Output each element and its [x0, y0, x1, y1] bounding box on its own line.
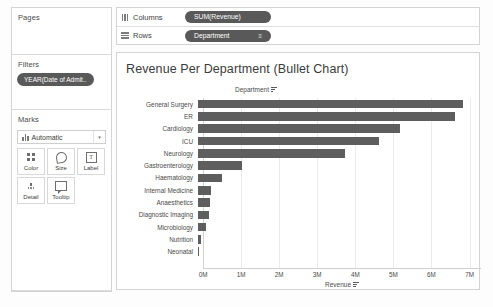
bar-mark[interactable] [198, 223, 206, 232]
bar-row-label[interactable]: Cardiology [117, 125, 198, 132]
bar-row: General Surgery [117, 98, 481, 110]
detail-icon [28, 180, 35, 192]
bar-row-label[interactable]: General Surgery [117, 101, 198, 108]
color-icon [27, 151, 35, 163]
size-icon [56, 151, 67, 163]
bar-mark-icon [22, 134, 29, 141]
bar-track [198, 110, 481, 122]
bar-mark[interactable] [198, 211, 209, 220]
bar-row: Cardiology [117, 123, 481, 135]
rows-label: Rows [133, 31, 185, 40]
sort-descending-icon[interactable]: ≡ [258, 30, 262, 42]
axis-tick-label: 7M [465, 271, 474, 278]
pages-title: Pages [12, 8, 111, 25]
bar-row-label[interactable]: Diagnostic Imaging [117, 211, 198, 218]
bar-row-label[interactable]: Microbiology [117, 224, 198, 231]
marks-buttons: Color Size T Label Detail [17, 148, 106, 204]
bar-row: Gastroenterology [117, 159, 481, 171]
axis-tick-label: 2M [275, 271, 284, 278]
bar-row: Haematology [117, 172, 481, 184]
columns-pill-sum-revenue[interactable]: SUM(Revenue) [185, 11, 271, 23]
columns-icon [117, 14, 133, 21]
marks-type-label: Automatic [32, 134, 94, 141]
page-caption [0, 297, 493, 307]
marks-color-button[interactable]: Color [17, 148, 45, 175]
rows-icon [117, 32, 133, 38]
bar-row-label[interactable]: ER [117, 113, 198, 120]
bar-mark[interactable] [198, 198, 210, 207]
bar-row-label[interactable]: Neurology [117, 150, 198, 157]
page-title: Revenue Per Department (Bullet Chart) [117, 53, 479, 76]
bullet-chart-plot: General SurgeryERCardiologyICUNeurologyG… [117, 98, 481, 268]
value-axis-line [203, 268, 481, 269]
viz-pane: Revenue Per Department (Bullet Chart) De… [116, 52, 480, 290]
bar-row: Anaesthetics [117, 196, 481, 208]
bar-row-label[interactable]: Gastroenterology [117, 162, 198, 169]
axis-tick-label: 4M [351, 271, 360, 278]
bar-track [198, 246, 481, 258]
bar-track [198, 123, 481, 135]
bar-track [198, 184, 481, 196]
value-axis-title-text: Revenue [325, 281, 351, 288]
bar-mark[interactable] [198, 186, 211, 195]
bar-row-label[interactable]: Neonatal [117, 248, 198, 255]
filters-card[interactable]: Filters YEAR(Date of Admit.. [12, 55, 111, 110]
chevron-down-icon[interactable]: ▾ [93, 131, 105, 143]
bar-mark[interactable] [198, 149, 345, 158]
rows-pill-department[interactable]: Department ≡ [185, 30, 271, 42]
tableau-worksheet: Pages Filters YEAR(Date of Admit.. Marks… [0, 0, 493, 307]
marks-card: Marks Automatic ▾ Color Size T [12, 110, 111, 291]
bar-track [198, 221, 481, 233]
bar-mark[interactable] [198, 174, 222, 183]
marks-detail-button[interactable]: Detail [17, 177, 45, 204]
marks-size-button[interactable]: Size [47, 148, 75, 175]
bar-row-label[interactable]: Haematology [117, 174, 198, 181]
columns-rows-shelf: Columns SUM(Revenue) Rows Department ≡ [116, 7, 480, 45]
marks-detail-label: Detail [23, 193, 38, 201]
pages-card[interactable]: Pages [12, 8, 111, 55]
category-axis-label: Department [235, 86, 269, 93]
bar-row: Nutrition [117, 233, 481, 245]
bar-mark[interactable] [198, 137, 379, 146]
bar-row: Neonatal [117, 246, 481, 258]
bar-mark[interactable] [198, 124, 400, 133]
marks-tooltip-label: Tooltip [52, 193, 69, 201]
bar-rows: General SurgeryERCardiologyICUNeurologyG… [117, 98, 481, 258]
bar-row: Microbiology [117, 221, 481, 233]
bar-mark[interactable] [198, 235, 201, 244]
marks-label-button[interactable]: T Label [77, 148, 105, 175]
bar-mark[interactable] [198, 112, 455, 121]
sort-descending-icon[interactable] [271, 87, 277, 91]
bar-track [198, 196, 481, 208]
bar-row: ER [117, 110, 481, 122]
axis-tick-label: 3M [313, 271, 322, 278]
bar-track [198, 172, 481, 184]
bar-mark[interactable] [198, 161, 242, 170]
bar-track [198, 209, 481, 221]
marks-tooltip-button[interactable]: Tooltip [47, 177, 75, 204]
bar-mark[interactable] [198, 100, 463, 109]
marks-type-dropdown[interactable]: Automatic ▾ [17, 130, 106, 144]
marks-size-label: Size [55, 164, 67, 172]
bar-track [198, 159, 481, 171]
axis-tick-label: 5M [389, 271, 398, 278]
marks-color-label: Color [24, 164, 38, 172]
bar-row: Internal Medicine [117, 184, 481, 196]
sort-descending-icon[interactable] [353, 282, 359, 286]
bar-track [198, 135, 481, 147]
bar-row-label[interactable]: Internal Medicine [117, 187, 198, 194]
rows-shelf[interactable]: Rows Department ≡ [117, 26, 479, 44]
filter-pill-year-date-of-admit[interactable]: YEAR(Date of Admit.. [17, 73, 94, 86]
filters-title: Filters [12, 55, 111, 72]
value-axis-title[interactable]: Revenue [203, 281, 481, 288]
bar-row-label[interactable]: Nutrition [117, 236, 198, 243]
bar-track [198, 147, 481, 159]
bar-row-label[interactable]: ICU [117, 138, 198, 145]
category-axis-header[interactable]: Department [235, 86, 277, 93]
columns-pill-text: SUM(Revenue) [194, 11, 241, 23]
axis-tick-label: 0M [199, 271, 208, 278]
columns-shelf[interactable]: Columns SUM(Revenue) [117, 8, 479, 26]
bar-row-label[interactable]: Anaesthetics [117, 199, 198, 206]
bar-mark[interactable] [198, 247, 199, 256]
bar-row: ICU [117, 135, 481, 147]
